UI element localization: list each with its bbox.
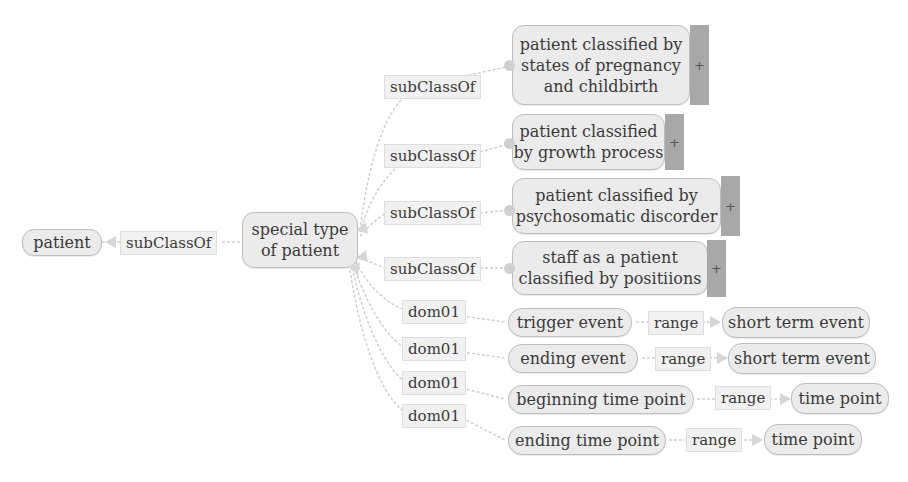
node-label-line: special type xyxy=(252,219,349,240)
node-beginning-time-point[interactable]: beginning time point xyxy=(508,385,694,414)
node-label: trigger event xyxy=(517,312,624,333)
node-short-term-event-1[interactable]: short term event xyxy=(722,307,870,338)
node-label: ending event xyxy=(520,348,625,369)
connector-dot xyxy=(504,263,515,274)
node-label-line: of patient xyxy=(261,240,339,261)
edge-label-subclassof-1: subClassOf xyxy=(384,75,481,99)
ontology-diagram: patient subClassOf special type of patie… xyxy=(0,0,908,482)
node-growth-process[interactable]: patient classified by growth process xyxy=(512,114,665,170)
edge-label-dom01-1: dom01 xyxy=(402,300,466,324)
edge-label-subclassof-root: subClassOf xyxy=(120,231,217,255)
expand-button-growth[interactable]: + xyxy=(665,114,684,170)
expand-button-pregnancy[interactable]: + xyxy=(690,25,709,105)
connector-dot xyxy=(504,138,515,149)
node-label: time point xyxy=(772,429,855,450)
edge-label-range-1: range xyxy=(648,311,704,335)
node-label-line: staff as a patient xyxy=(542,247,678,268)
edge-label-range-2: range xyxy=(655,347,711,371)
node-label-line: psychosomatic discorder xyxy=(516,206,718,227)
node-label-line: states of pregnancy xyxy=(521,55,681,76)
node-label: ending time point xyxy=(515,430,659,451)
edge-label-subclassof-2: subClassOf xyxy=(384,144,481,168)
node-staff-as-patient[interactable]: staff as a patient classified by positii… xyxy=(512,241,708,295)
connector-dot xyxy=(504,60,515,71)
node-label-line: patient classified xyxy=(519,121,657,142)
node-label: patient xyxy=(33,232,91,253)
edge-label-range-4: range xyxy=(686,428,742,452)
node-label: short term event xyxy=(734,348,870,369)
edge-label-dom01-2: dom01 xyxy=(402,337,466,361)
node-ending-time-point[interactable]: ending time point xyxy=(508,426,666,455)
expand-button-staff[interactable]: + xyxy=(707,240,726,297)
edge-label-dom01-3: dom01 xyxy=(402,371,466,395)
node-label-line: patient classified by xyxy=(520,34,683,55)
node-patient[interactable]: patient xyxy=(22,229,102,256)
node-trigger-event[interactable]: trigger event xyxy=(508,308,632,337)
node-short-term-event-2[interactable]: short term event xyxy=(728,343,876,374)
node-ending-event[interactable]: ending event xyxy=(508,344,638,373)
node-special-type-of-patient[interactable]: special type of patient xyxy=(242,212,358,268)
node-psychosomatic-discorder[interactable]: patient classified by psychosomatic disc… xyxy=(512,178,721,234)
node-label: short term event xyxy=(728,312,864,333)
node-label-line: by growth process xyxy=(514,142,664,163)
expand-button-psychosomatic[interactable]: + xyxy=(721,176,740,236)
edge-label-subclassof-3: subClassOf xyxy=(384,201,481,225)
node-label-line: patient classified by xyxy=(535,185,698,206)
connector-dot xyxy=(504,205,515,216)
node-label: beginning time point xyxy=(516,389,685,410)
edge-label-subclassof-4: subClassOf xyxy=(384,257,481,281)
node-time-point-2[interactable]: time point xyxy=(764,424,862,455)
node-label: time point xyxy=(799,388,882,409)
node-pregnancy-childbirth[interactable]: patient classified by states of pregnanc… xyxy=(512,25,690,105)
node-time-point-1[interactable]: time point xyxy=(791,383,889,414)
edge-label-range-3: range xyxy=(715,386,771,410)
edge-label-dom01-4: dom01 xyxy=(402,404,466,428)
node-label-line: and childbirth xyxy=(544,76,659,97)
node-label-line: classified by positiions xyxy=(518,268,701,289)
